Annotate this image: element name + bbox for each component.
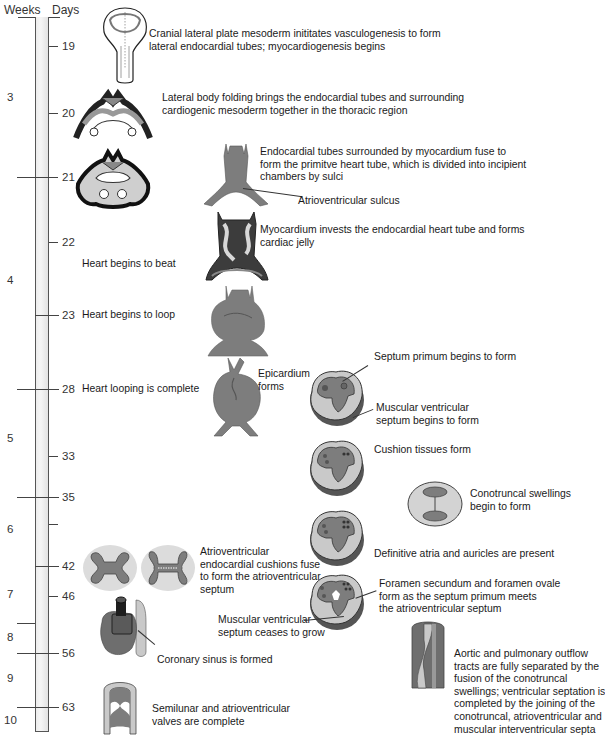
looping-heart-illustration — [206, 284, 270, 356]
embryo-day21-cross-section — [72, 150, 154, 212]
week-label: 3 — [7, 91, 13, 103]
day-tick — [35, 497, 59, 498]
week-boundary-tick — [17, 177, 49, 178]
caption-foramen-secundum: Foramen secundum and foramen ovaleform a… — [379, 578, 560, 616]
conotruncal-swellings-illustration — [406, 480, 464, 528]
timeline-bar — [35, 17, 49, 732]
week-label: 4 — [7, 274, 13, 286]
day-tick — [35, 707, 59, 708]
caption-septum-primum: Septum primum begins to form — [374, 351, 516, 364]
caption-valves-complete: Semilunar and atrioventricularvalves are… — [152, 703, 290, 728]
week-boundary-tick — [17, 623, 35, 624]
days-header: Days — [52, 3, 79, 17]
day-tick — [49, 113, 58, 114]
day-tick — [49, 524, 58, 525]
valves-complete-illustration — [102, 676, 138, 736]
caption-av-sulcus: Atrioventricular sulcus — [298, 195, 400, 208]
caption-myocardium-invests: Myocardium invests the endocardial heart… — [260, 224, 525, 249]
day-tick — [49, 596, 58, 597]
caption-av-cushions-fuse-line: endocardial cushions fuse — [200, 559, 321, 572]
week-label: 10 — [4, 714, 17, 726]
av-cushions-unfused-illustration — [82, 544, 138, 592]
caption-valves-complete-line: Semilunar and atrioventricular — [152, 703, 290, 716]
outflow-tracts-illustration — [410, 620, 446, 690]
heart-tube-myocardium-illustration — [206, 210, 268, 282]
caption-muscular-septum-begins-line: septum begins to form — [376, 415, 479, 428]
caption-myocardium-invests-line: cardiac jelly — [260, 237, 525, 250]
caption-day21-line: chambers by sulci — [260, 171, 526, 184]
caption-day20-line: Lateral body folding brings the endocard… — [162, 92, 464, 105]
caption-definitive-atria: Definitive atria and auricles are presen… — [374, 548, 554, 561]
caption-valves-complete-line: valves are complete — [152, 716, 290, 729]
day-tick — [35, 389, 59, 390]
caption-outflow-tracts-line: conotruncal, atrioventricular and — [454, 711, 605, 724]
day-tick — [35, 566, 59, 567]
day-label: 23 — [62, 309, 75, 321]
caption-outflow-tracts-line: tracts are fully separated by the — [454, 661, 605, 674]
caption-foramen-secundum-line: the atrioventricular septum — [379, 603, 560, 616]
caption-outflow-tracts-line: completed by the joining of the — [454, 698, 605, 711]
caption-day19-line: Cranial lateral plate mesoderm inititate… — [149, 28, 441, 41]
day-tick — [49, 46, 58, 47]
caption-day20: Lateral body folding brings the endocard… — [162, 92, 464, 117]
caption-muscular-septum-ceases-line: septum ceases to grow — [218, 627, 325, 640]
caption-muscular-septum-ceases: Muscular ventricularseptum ceases to gro… — [218, 614, 325, 639]
caption-myocardium-invests-line: Myocardium invests the endocardial heart… — [260, 224, 525, 237]
caption-outflow-tracts-line: muscular interventricular septa — [454, 724, 605, 737]
caption-av-cushions-fuse-line: to form the atrioventricular — [200, 571, 321, 584]
caption-day19: Cranial lateral plate mesoderm inititate… — [149, 28, 441, 53]
day-label: 42 — [62, 560, 75, 572]
caption-conotruncal-swellings-line: begin to form — [470, 501, 571, 514]
primitive-heart-tube-illustration — [204, 142, 268, 210]
day-tick — [35, 653, 59, 654]
day-tick — [49, 456, 58, 457]
caption-day21-line: form the primitve heart tube, which is d… — [260, 159, 526, 172]
day-label: 56 — [62, 647, 75, 659]
caption-heart-begins-to-loop: Heart begins to loop — [82, 309, 175, 322]
day-label: 33 — [62, 450, 75, 462]
caption-av-cushions-fuse-line: septum — [200, 584, 321, 597]
day-tick — [49, 242, 58, 243]
caption-outflow-tracts-line: fusion of the conotruncal — [454, 673, 605, 686]
caption-outflow-tracts: Aortic and pulmonary outflowtracts are f… — [454, 648, 605, 736]
caption-conotruncal-swellings-line: Conotruncal swellings — [470, 488, 571, 501]
caption-epicardium-forms-line: forms — [258, 381, 310, 394]
embryo-day19-illustration — [100, 6, 150, 86]
week-label: 7 — [7, 588, 13, 600]
day-label: 19 — [62, 40, 75, 52]
day-label: 22 — [62, 236, 75, 248]
day-tick — [49, 177, 58, 178]
day-label: 28 — [62, 383, 75, 395]
caption-outflow-tracts-line: Aortic and pulmonary outflow — [454, 648, 605, 661]
cushion-tissue-section-illustration — [306, 436, 368, 498]
caption-day20-line: cardiogenic mesoderm together in the tho… — [162, 105, 464, 118]
caption-cushion-tissues: Cushion tissues form — [374, 444, 471, 457]
caption-coronary-sinus: Coronary sinus is formed — [157, 654, 273, 667]
caption-av-cushions-fuse: Atrioventricularendocardial cushions fus… — [200, 546, 321, 596]
caption-epicardium-forms: Epicardiumforms — [258, 368, 310, 393]
week-label: 8 — [7, 631, 13, 643]
week-label: 9 — [7, 672, 13, 684]
av-cushions-fused-illustration — [140, 544, 196, 592]
caption-epicardium-forms-line: Epicardium — [258, 368, 310, 381]
caption-heart-begins-to-beat: Heart begins to beat — [82, 258, 176, 271]
caption-day19-line: lateral endocardial tubes; myocardiogene… — [149, 41, 441, 54]
caption-heart-looping-complete: Heart looping is complete — [82, 383, 199, 396]
caption-conotruncal-swellings: Conotruncal swellingsbegin to form — [470, 488, 571, 513]
embryo-day20-cross-section — [72, 88, 154, 150]
week-label: 6 — [7, 523, 13, 535]
day-label: 35 — [62, 491, 75, 503]
septum-primum-section-illustration — [306, 366, 368, 428]
caption-foramen-secundum-line: form as the septum primum meets — [379, 591, 560, 604]
caption-day21: Endocardial tubes surrounded by myocardi… — [260, 146, 526, 184]
week-label: 5 — [7, 432, 13, 444]
caption-day21-line: Endocardial tubes surrounded by myocardi… — [260, 146, 526, 159]
caption-av-cushions-fuse-line: Atrioventricular — [200, 546, 321, 559]
caption-foramen-secundum-line: Foramen secundum and foramen ovale — [379, 578, 560, 591]
caption-muscular-septum-begins: Muscular ventricularseptum begins to for… — [376, 402, 479, 427]
caption-outflow-tracts-line: swellings; ventricular septation is — [454, 686, 605, 699]
caption-muscular-septum-begins-line: Muscular ventricular — [376, 402, 479, 415]
day-tick — [35, 315, 59, 316]
weeks-header: Weeks — [4, 3, 40, 17]
coronary-sinus-heart-illustration — [98, 596, 154, 660]
